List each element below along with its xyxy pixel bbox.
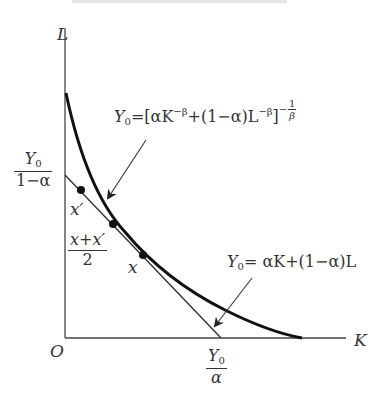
x-intercept-denominator: α [209, 370, 224, 387]
x-intercept-numerator: Y [208, 346, 219, 365]
ces-outer-exp-num: 1 [289, 98, 295, 109]
linear-lhs: Y [227, 252, 238, 271]
ces-lhs: Y [114, 107, 125, 126]
origin-label: O [50, 343, 64, 360]
midpoint-numerator: x+x′ [68, 232, 107, 249]
linear-rhs: = αK+(1−α)L [244, 252, 356, 271]
ces-outer-exp-sign: − [279, 104, 287, 115]
x-intercept-label: Y0 α [206, 348, 227, 386]
y-axis-label: L [57, 26, 68, 43]
y-intercept-numerator: Y [25, 149, 36, 168]
ces-outer-exp-den: β [289, 110, 295, 121]
midpoint-denominator: 2 [80, 252, 94, 269]
ces-isoquant-curve [66, 93, 302, 338]
midpoint-label: x+x′ 2 [68, 232, 107, 269]
y-intercept-denominator: 1−α [14, 173, 52, 190]
point-x-prime [77, 186, 85, 194]
ces-body-b: +(1−α)L [188, 107, 259, 126]
x-intercept-sub: 0 [219, 355, 225, 366]
ces-body-a: =[αK [131, 107, 173, 126]
ces-exp1: −β [173, 106, 187, 117]
point-x-prime-label: x′ [70, 201, 83, 218]
ces-outer-exponent: −1β [279, 98, 296, 121]
ces-exp2: −β [258, 106, 272, 117]
point-x [139, 251, 147, 259]
point-midpoint [109, 220, 117, 228]
ces-arrow [108, 140, 146, 198]
x-axis-label: K [354, 332, 367, 349]
ces-outer-exp-frac: 1β [288, 98, 296, 121]
ces-equation: Y0=[αK−β+(1−α)L−β]−1β [114, 98, 296, 127]
linear-equation: Y0= αK+(1−α)L [227, 252, 356, 272]
y-intercept-sub: 0 [35, 158, 41, 169]
y-intercept-label: Y0 1−α [14, 151, 52, 189]
point-x-label: x [128, 259, 138, 276]
